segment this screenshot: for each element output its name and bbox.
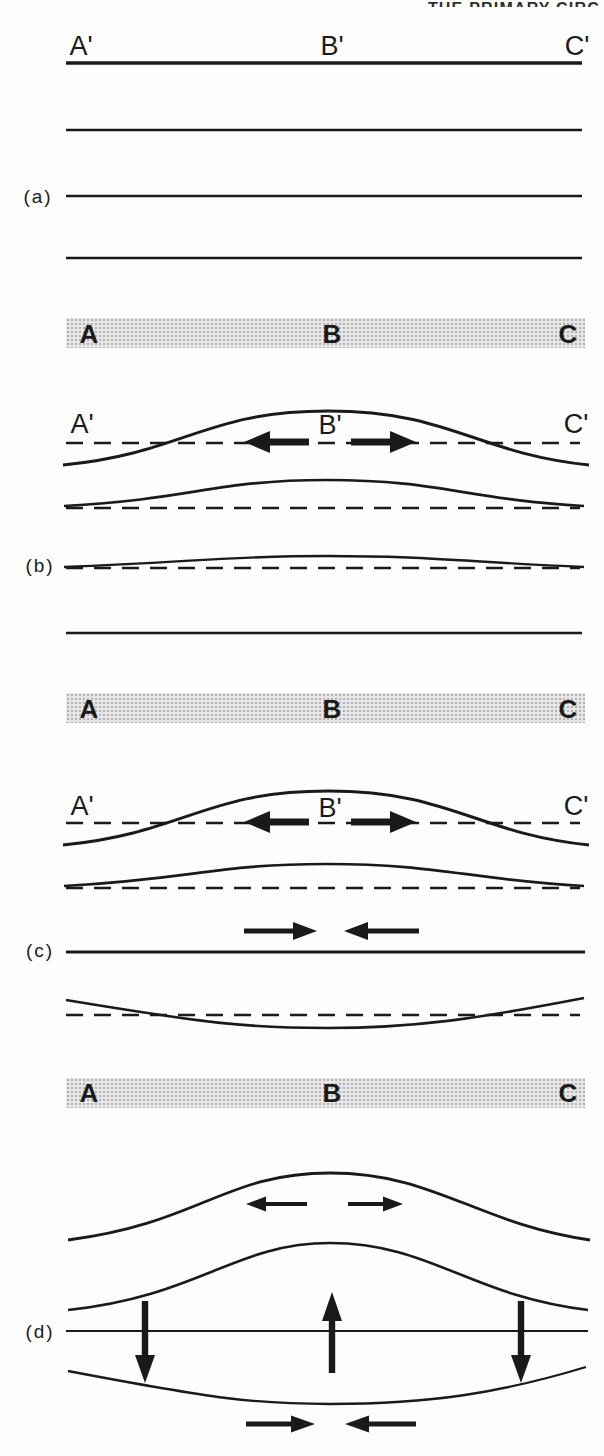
section-label-a-prime: A' xyxy=(69,33,92,60)
section-label-c-prime: C' xyxy=(565,33,590,60)
compression-arrow-right-icon xyxy=(345,1416,416,1433)
fold-arch-b3 xyxy=(64,556,584,567)
section-label-c-prime: C' xyxy=(564,411,589,438)
subsidence-arrow-left-icon xyxy=(135,1301,155,1383)
section-label-b-prime: B' xyxy=(318,795,341,822)
extension-arrow-right-icon xyxy=(348,1197,403,1212)
band-label-c: C xyxy=(559,321,578,347)
panel-tag-b: (b) xyxy=(25,556,54,575)
band-label-b: B xyxy=(323,1080,342,1106)
figure-page: THE PRIMARY CIRC xyxy=(0,0,604,1456)
fold-arch-d1 xyxy=(68,1173,590,1240)
band-label-c: C xyxy=(559,696,578,722)
fold-arch-c2 xyxy=(64,864,584,886)
band-label-a: A xyxy=(80,696,99,722)
section-label-b-prime: B' xyxy=(320,33,343,60)
uplift-arrow-icon xyxy=(322,1292,342,1373)
section-label-c-prime: C' xyxy=(564,793,589,820)
panel-c-lines xyxy=(63,791,589,1028)
band-label-a: A xyxy=(80,321,99,347)
figure-artwork xyxy=(0,0,604,1456)
panel-b-lines xyxy=(63,411,589,633)
fold-arch-d2 xyxy=(68,1243,588,1310)
syncline-c xyxy=(66,998,584,1028)
panel-tag-d: (d) xyxy=(25,1322,54,1341)
band-label-b: B xyxy=(323,696,342,722)
panel-c-arrows xyxy=(244,811,419,940)
band-label-c: C xyxy=(559,1080,578,1106)
band-label-a: A xyxy=(80,1080,99,1106)
section-label-b-prime: B' xyxy=(318,412,341,439)
extension-arrow-left-icon xyxy=(244,431,309,453)
compression-arrow-left-icon xyxy=(246,1416,315,1433)
fold-arch-b2 xyxy=(64,480,584,506)
extension-arrow-right-icon xyxy=(351,431,416,453)
subsidence-arrow-right-icon xyxy=(511,1301,531,1383)
extension-arrow-left-icon xyxy=(246,1197,307,1212)
compression-arrow-left-icon xyxy=(244,922,317,940)
extension-arrow-left-icon xyxy=(244,811,309,833)
section-label-a-prime: A' xyxy=(70,411,93,438)
compression-arrow-right-icon xyxy=(344,922,419,940)
panel-tag-a: (a) xyxy=(23,187,52,206)
section-label-a-prime: A' xyxy=(70,793,93,820)
panel-a-lines xyxy=(66,63,582,258)
band-label-b: B xyxy=(323,321,342,347)
panel-d-arrows xyxy=(135,1197,531,1433)
panel-tag-c: (c) xyxy=(26,941,54,960)
extension-arrow-right-icon xyxy=(351,811,416,833)
